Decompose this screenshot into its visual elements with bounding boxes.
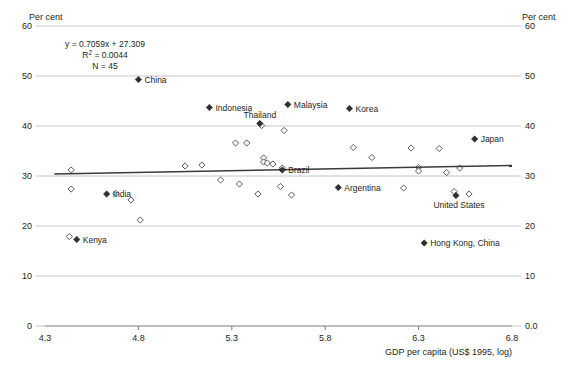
xtick-label-6.8: 6.8	[506, 333, 519, 343]
data-point-open-32	[466, 191, 472, 197]
chart-canvas: 00.0101020203030404050506060Per centPer …	[0, 0, 578, 379]
data-point-open-6	[182, 163, 188, 169]
ytick-label-right-30: 30	[525, 171, 535, 181]
scatter-chart: 00.0101020203030404050506060Per centPer …	[0, 0, 578, 379]
data-point-open-16	[255, 191, 261, 197]
data-point-open-18	[281, 127, 287, 133]
data-point-filled-japan	[471, 136, 477, 142]
data-label-kenya: Kenya	[83, 235, 107, 245]
data-point-open-24	[408, 145, 414, 151]
annotation-equation: y = 0.7059x + 27.309	[65, 39, 145, 49]
data-point-filled-india	[103, 191, 109, 197]
data-point-open-8	[217, 177, 223, 183]
y-axis-title-right: Per cent	[522, 12, 556, 22]
ytick-label-left-50: 50	[22, 71, 32, 81]
data-label-india: India	[113, 189, 132, 199]
data-point-open-0	[68, 167, 74, 173]
data-point-open-20	[277, 183, 283, 189]
data-label-china: China	[144, 75, 166, 85]
data-point-open-2	[66, 233, 72, 239]
ytick-label-right-20: 20	[525, 221, 535, 231]
data-label-united-states: United States	[433, 200, 484, 210]
data-point-open-9	[232, 140, 238, 146]
data-point-open-17	[270, 161, 276, 167]
data-point-filled-china	[135, 76, 141, 82]
data-point-open-5	[137, 217, 143, 223]
data-label-malaysia: Malaysia	[294, 100, 328, 110]
ytick-label-right-60: 60	[525, 21, 535, 31]
annotation-r-squared: R2 = 0.0044	[82, 49, 128, 61]
xtick-label-4.8: 4.8	[132, 333, 145, 343]
ytick-label-right-10: 10	[525, 271, 535, 281]
data-label-brazil: Brazil	[288, 165, 309, 175]
xtick-label-5.3: 5.3	[226, 333, 239, 343]
annotation-n: N = 45	[92, 61, 118, 71]
ytick-label-left-30: 30	[22, 171, 32, 181]
xtick-label-6.3: 6.3	[412, 333, 425, 343]
x-axis-title: GDP per capita (US$ 1995, log)	[385, 347, 512, 357]
y-axis-title-left: Per cent	[29, 12, 63, 22]
data-point-open-22	[350, 144, 356, 150]
data-point-open-7	[199, 162, 205, 168]
data-point-filled-hong-kong-china	[421, 240, 427, 246]
data-point-open-28	[436, 145, 442, 151]
data-label-japan: Japan	[481, 134, 504, 144]
data-label-thailand: Thailand	[244, 110, 277, 120]
xtick-label-5.8: 5.8	[319, 333, 332, 343]
ytick-label-right-0: 0.0	[525, 321, 538, 331]
ytick-label-right-50: 50	[525, 71, 535, 81]
data-point-open-1	[68, 186, 74, 192]
data-point-filled-argentina	[335, 184, 341, 190]
ytick-label-left-0: 0	[27, 321, 32, 331]
xtick-label-4.3: 4.3	[39, 333, 52, 343]
data-label-hong-kong-china: Hong Kong, China	[430, 238, 500, 248]
ytick-label-right-40: 40	[525, 121, 535, 131]
data-point-open-11	[236, 181, 242, 187]
ytick-label-left-10: 10	[22, 271, 32, 281]
data-point-open-21	[288, 192, 294, 198]
ytick-label-left-20: 20	[22, 221, 32, 231]
data-point-open-23	[369, 154, 375, 160]
data-label-korea: Korea	[355, 104, 378, 114]
data-point-open-27	[401, 185, 407, 191]
ytick-label-left-40: 40	[22, 121, 32, 131]
data-point-filled-indonesia	[206, 104, 212, 110]
data-label-argentina: Argentina	[344, 183, 381, 193]
data-point-open-29	[444, 169, 450, 175]
data-point-filled-malaysia	[285, 101, 291, 107]
ytick-label-left-60: 60	[22, 21, 32, 31]
data-point-filled-kenya	[74, 236, 80, 242]
data-point-open-10	[244, 140, 250, 146]
data-point-filled-korea	[346, 105, 352, 111]
